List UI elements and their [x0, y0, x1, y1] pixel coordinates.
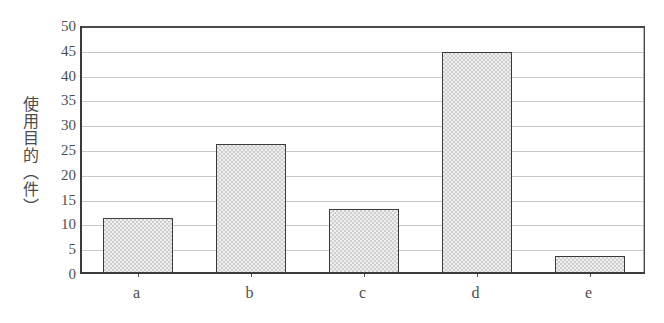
x-tick-label-c: c — [359, 284, 366, 302]
y-tick-label-15: 15 — [61, 192, 76, 207]
bar-series — [81, 27, 644, 273]
y-tick-label-45: 45 — [61, 43, 76, 58]
y-tick-label-5: 5 — [69, 242, 77, 257]
bar-chart-figure: 使用目的（件） 05101520253035404550 abcde — [0, 0, 664, 323]
y-tick-label-20: 20 — [61, 167, 76, 182]
plot-area — [80, 26, 645, 274]
y-axis-tick-labels: 05101520253035404550 — [44, 26, 76, 274]
x-tick-label-e: e — [585, 284, 592, 302]
bar-d — [442, 52, 512, 273]
y-tick-label-10: 10 — [61, 217, 76, 232]
bar-c — [329, 209, 399, 273]
x-tick-label-a: a — [133, 284, 140, 302]
y-tick-label-50: 50 — [61, 19, 76, 34]
bar-b — [216, 144, 286, 273]
x-tick-mark-d — [477, 273, 478, 277]
x-tick-label-d: d — [472, 284, 480, 302]
x-axis-tick-labels: abcde — [80, 284, 645, 312]
y-tick-label-25: 25 — [61, 143, 76, 158]
y-tick-label-0: 0 — [69, 267, 77, 282]
x-tick-mark-a — [138, 273, 139, 277]
x-tick-mark-b — [251, 273, 252, 277]
y-tick-label-35: 35 — [61, 93, 76, 108]
x-tick-mark-c — [364, 273, 365, 277]
y-tick-label-40: 40 — [61, 68, 76, 83]
x-tick-label-b: b — [246, 284, 254, 302]
y-tick-label-30: 30 — [61, 118, 76, 133]
y-axis-label: 使用目的（件） — [16, 60, 42, 250]
x-tick-mark-e — [590, 273, 591, 277]
bar-e — [555, 256, 625, 273]
bar-a — [103, 218, 173, 273]
